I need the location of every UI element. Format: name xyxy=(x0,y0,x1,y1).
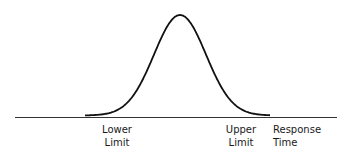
x-axis-label: Response Time xyxy=(273,123,345,149)
lower-limit-line2: Limit xyxy=(98,136,136,149)
lower-limit-line1: Lower xyxy=(98,123,136,136)
lower-limit-label: Lower Limit xyxy=(98,123,136,149)
upper-limit-label: Upper Limit xyxy=(222,123,260,149)
upper-limit-line2: Limit xyxy=(222,136,260,149)
normal-distribution-curve xyxy=(85,15,270,115)
upper-limit-line1: Upper xyxy=(222,123,260,136)
